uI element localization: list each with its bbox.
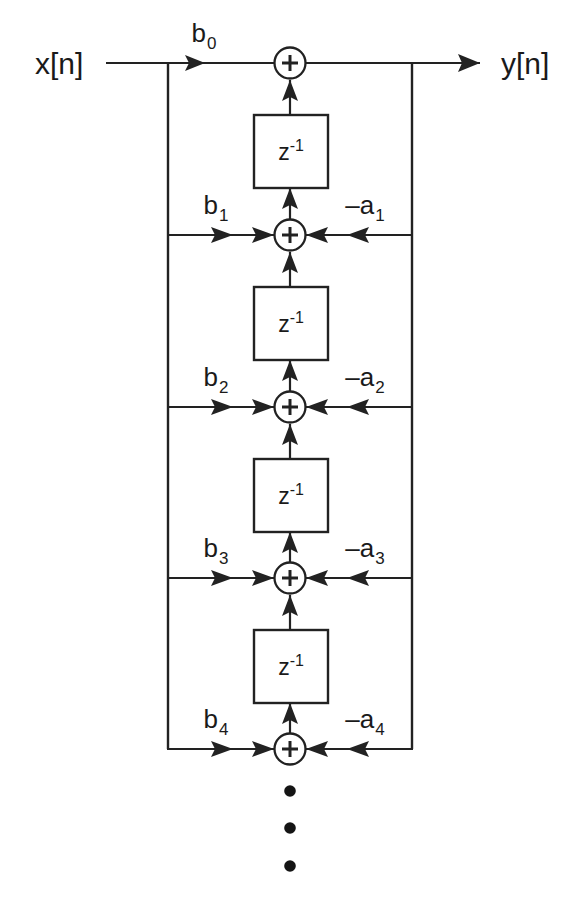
ellipsis-dot-2 xyxy=(284,822,296,834)
stage-4-group: b4 –a4 xyxy=(167,703,413,765)
output-signal-label: y[n] xyxy=(501,47,549,80)
coef-label-a2: –a2 xyxy=(345,362,384,397)
coef-label-a1: –a1 xyxy=(345,190,384,225)
coef-label-b1: b1 xyxy=(204,190,229,225)
coef-label-b2: b2 xyxy=(204,362,229,397)
flow-graph-canvas: b0 z-1 b1 xyxy=(0,0,579,900)
delay-block-4-group: z-1 xyxy=(254,630,328,703)
delay-block-2-group: z-1 xyxy=(254,287,328,360)
input-signal-label: x[n] xyxy=(35,47,83,80)
stage-1-group: b1 –a1 xyxy=(168,188,412,287)
ellipsis-dot-3 xyxy=(284,860,296,872)
stage-3-group: b3 –a3 xyxy=(168,532,412,630)
ellipsis-dot-1 xyxy=(284,785,296,797)
coef-label-b3: b3 xyxy=(204,533,229,568)
coef-label-b4: b4 xyxy=(204,704,229,739)
coef-label-a4: –a4 xyxy=(345,704,384,739)
coef-label-a3: –a3 xyxy=(345,533,384,568)
stage-2-group: b2 –a2 xyxy=(168,360,412,459)
coef-label-b0: b0 xyxy=(192,18,217,53)
delay-block-1-group: z-1 xyxy=(254,115,328,188)
delay-block-3-group: z-1 xyxy=(254,459,328,532)
ellipsis-group xyxy=(284,785,296,872)
signal-flow-diagram: b0 z-1 b1 xyxy=(0,0,579,900)
